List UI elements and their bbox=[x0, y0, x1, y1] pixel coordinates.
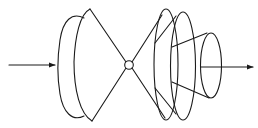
left-focusing-cone bbox=[74, 9, 126, 121]
beam-diagram bbox=[0, 0, 258, 128]
left-lens-element bbox=[58, 16, 84, 118]
right-lens-2 bbox=[171, 12, 196, 120]
right-diverging-cone bbox=[132, 9, 178, 120]
output-cone bbox=[172, 33, 222, 98]
output-lens bbox=[201, 33, 222, 98]
diagram-svg bbox=[0, 0, 258, 128]
